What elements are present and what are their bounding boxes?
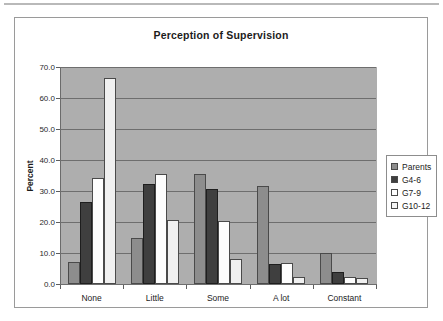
x-axis-category-label: Little	[146, 293, 164, 303]
legend-item-label: G7-9	[402, 188, 421, 198]
page-top-rule	[4, 3, 439, 5]
y-axis-tick-label: 50.0	[39, 125, 55, 134]
bar[interactable]	[80, 202, 92, 284]
bar[interactable]	[194, 174, 206, 284]
x-axis-tick	[250, 285, 251, 289]
y-axis-tick-label: 20.0	[39, 218, 55, 227]
y-axis-title-label: Percent	[25, 160, 35, 191]
y-axis-tick-label: 40.0	[39, 156, 55, 165]
legend-item[interactable]: G10-12	[391, 199, 431, 212]
bar[interactable]	[167, 220, 179, 284]
legend-item[interactable]: G7-9	[391, 186, 431, 199]
legend-swatch-icon	[391, 163, 398, 170]
bar-group	[186, 67, 249, 284]
bar[interactable]	[104, 78, 116, 284]
bar[interactable]	[257, 186, 269, 284]
bar[interactable]	[356, 278, 368, 284]
bar-group	[123, 67, 186, 284]
x-axis-labels: NoneLittleSomeA lotConstant	[60, 285, 376, 307]
bar[interactable]	[230, 259, 242, 284]
x-axis-category-label: Some	[207, 293, 229, 303]
legend-swatch-icon	[391, 176, 398, 183]
legend-item[interactable]: Parents	[391, 160, 431, 173]
bar[interactable]	[332, 272, 344, 284]
bar[interactable]	[218, 221, 230, 284]
x-axis-category-label: Constant	[327, 293, 361, 303]
x-axis-category-label: A lot	[273, 293, 290, 303]
bar-group	[313, 67, 376, 284]
bar[interactable]	[320, 253, 332, 284]
x-axis-tick	[123, 285, 124, 289]
y-axis-title: Percent	[23, 67, 37, 284]
chart-page: Perception of Supervision Percent 0.010.…	[0, 0, 443, 321]
bar[interactable]	[131, 238, 143, 284]
legend-swatch-icon	[391, 202, 398, 209]
bar[interactable]	[92, 178, 104, 284]
bar[interactable]	[143, 184, 155, 284]
x-axis-category-label: None	[81, 293, 101, 303]
y-axis-tick-label: 30.0	[39, 187, 55, 196]
bar[interactable]	[344, 277, 356, 284]
legend-item[interactable]: G4-6	[391, 173, 431, 186]
legend-item-label: G4-6	[402, 175, 421, 185]
legend-swatch-icon	[391, 189, 398, 196]
legend-item-label: G10-12	[402, 201, 430, 211]
chart-title: Perception of Supervision	[15, 29, 427, 41]
x-axis-tick	[60, 285, 61, 289]
bar[interactable]	[281, 263, 293, 284]
bar-group	[250, 67, 313, 284]
bar[interactable]	[293, 277, 305, 284]
bar[interactable]	[155, 174, 167, 284]
legend-item-label: Parents	[402, 162, 431, 172]
x-axis-tick	[186, 285, 187, 289]
bar-group	[60, 67, 123, 284]
y-axis-tick-label: 10.0	[39, 249, 55, 258]
chart-figure: Perception of Supervision Percent 0.010.…	[14, 17, 428, 308]
bar[interactable]	[68, 262, 80, 284]
plot-wrapper: 0.010.020.030.040.050.060.070.0	[60, 67, 376, 284]
chart-legend: ParentsG4-6G7-9G10-12	[386, 155, 437, 217]
x-axis-tick	[313, 285, 314, 289]
y-axis-tick-label: 70.0	[39, 63, 55, 72]
x-axis-tick	[376, 285, 377, 289]
bar[interactable]	[206, 189, 218, 284]
y-axis-tick-label: 0.0	[44, 280, 55, 289]
bar[interactable]	[269, 264, 281, 284]
y-axis-tick-label: 60.0	[39, 94, 55, 103]
